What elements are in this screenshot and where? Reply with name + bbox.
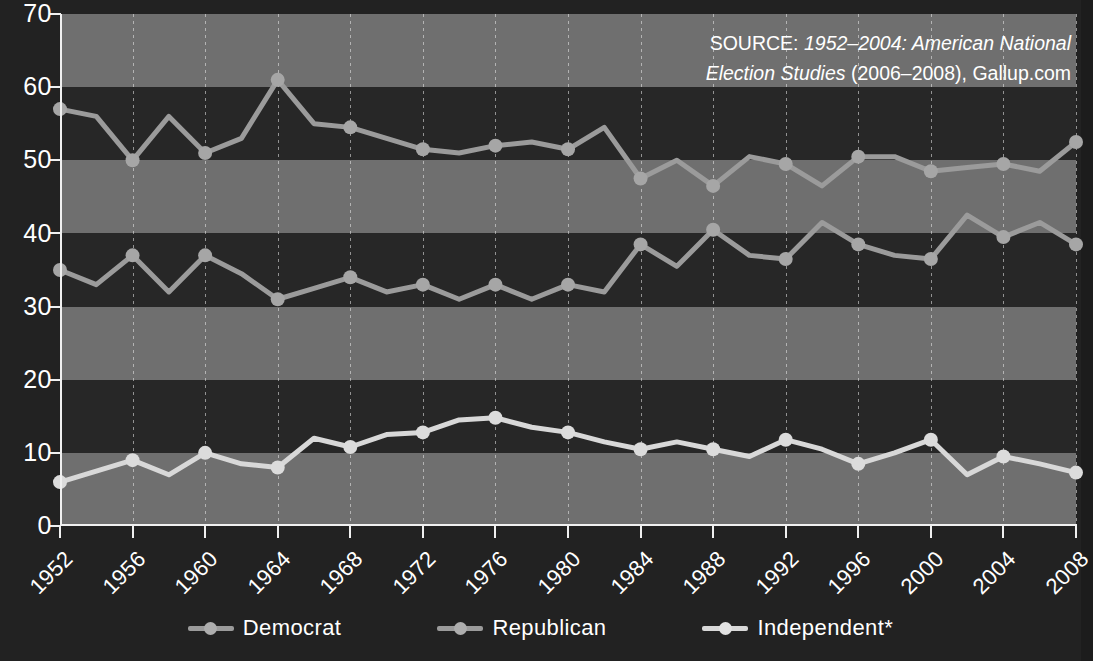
x-tick	[494, 526, 496, 538]
x-tick	[422, 526, 424, 538]
x-tick	[277, 526, 279, 538]
data-point	[996, 450, 1010, 464]
x-axis-label-1956: 1956	[93, 546, 151, 604]
y-axis-label-30: 30	[23, 294, 52, 319]
data-point	[343, 440, 357, 454]
legend-swatch-republican	[437, 626, 483, 631]
x-axis-label-2000: 2000	[891, 546, 949, 604]
legend-swatch-democrat	[188, 626, 234, 631]
data-point	[416, 142, 430, 156]
data-point	[1069, 237, 1083, 251]
x-tick	[712, 526, 714, 538]
y-axis-label-0: 0	[38, 513, 52, 538]
data-point	[198, 248, 212, 262]
data-point	[1069, 466, 1083, 480]
data-point	[779, 157, 793, 171]
data-point	[996, 157, 1010, 171]
y-axis-label-70: 70	[23, 1, 52, 26]
data-point	[198, 146, 212, 160]
x-tick	[349, 526, 351, 538]
x-axis-label-1972: 1972	[383, 546, 441, 604]
data-point	[779, 252, 793, 266]
x-tick	[132, 526, 134, 538]
x-tick	[930, 526, 932, 538]
x-tick	[640, 526, 642, 538]
source-prefix: SOURCE:	[710, 32, 804, 54]
series-lines	[60, 14, 1076, 526]
legend-label-independent: Independent*	[757, 615, 893, 641]
data-point	[198, 446, 212, 460]
x-tick	[59, 526, 61, 538]
gridline-vertical	[1076, 14, 1077, 526]
x-tick	[1075, 526, 1077, 538]
legend-swatch-independent	[702, 626, 748, 631]
data-point	[851, 237, 865, 251]
x-tick	[785, 526, 787, 538]
legend-label-republican: Republican	[492, 615, 606, 641]
chart-legend: Democrat Republican Independent*	[0, 615, 1081, 641]
data-point	[851, 457, 865, 471]
data-point	[416, 425, 430, 439]
data-point	[271, 73, 285, 87]
data-point	[706, 223, 720, 237]
data-point	[561, 142, 575, 156]
data-point	[924, 164, 938, 178]
plot-area	[60, 14, 1076, 526]
x-axis-label-1976: 1976	[456, 546, 514, 604]
x-axis-label-1996: 1996	[819, 546, 877, 604]
data-point	[488, 411, 502, 425]
source-suffix: (2006–2008), Gallup.com	[846, 62, 1071, 84]
x-axis-label-2004: 2004	[964, 546, 1022, 604]
data-point	[343, 120, 357, 134]
y-axis-line	[60, 14, 62, 526]
x-axis-label-1980: 1980	[528, 546, 586, 604]
y-axis-label-40: 40	[23, 221, 52, 246]
legend-item-republican[interactable]: Republican	[437, 615, 606, 641]
data-point	[996, 230, 1010, 244]
x-tick	[857, 526, 859, 538]
x-axis-label-1968: 1968	[311, 546, 369, 604]
y-axis-label-50: 50	[23, 147, 52, 172]
x-axis-label-1992: 1992	[746, 546, 804, 604]
data-point	[706, 442, 720, 456]
data-point	[634, 442, 648, 456]
series-line-democrat	[60, 80, 1076, 186]
data-point	[634, 237, 648, 251]
data-point	[416, 278, 430, 292]
y-axis-label-60: 60	[23, 74, 52, 99]
data-point	[924, 433, 938, 447]
legend-item-independent[interactable]: Independent*	[702, 615, 893, 641]
y-axis-label-20: 20	[23, 367, 52, 392]
x-axis-label-1984: 1984	[601, 546, 659, 604]
y-axis-label-10: 10	[23, 440, 52, 465]
data-point	[126, 153, 140, 167]
data-point	[488, 278, 502, 292]
legend-item-democrat[interactable]: Democrat	[188, 615, 342, 641]
x-axis-label-2008: 2008	[1036, 546, 1093, 604]
x-axis-label-1952: 1952	[20, 546, 78, 604]
data-point	[488, 139, 502, 153]
x-axis-label-1988: 1988	[674, 546, 732, 604]
x-tick	[204, 526, 206, 538]
legend-label-democrat: Democrat	[243, 615, 342, 641]
x-tick	[1002, 526, 1004, 538]
x-axis-label-1960: 1960	[166, 546, 224, 604]
data-point	[706, 179, 720, 193]
x-axis-label-1964: 1964	[238, 546, 296, 604]
data-point	[343, 270, 357, 284]
data-point	[271, 292, 285, 306]
data-point	[561, 425, 575, 439]
data-point	[126, 453, 140, 467]
data-point	[924, 252, 938, 266]
data-point	[1069, 135, 1083, 149]
x-tick	[567, 526, 569, 538]
data-point	[271, 460, 285, 474]
source-note: SOURCE: 1952–2004: American National Ele…	[661, 28, 1071, 88]
data-point	[779, 433, 793, 447]
data-point	[634, 172, 648, 186]
data-point	[126, 248, 140, 262]
data-point	[561, 278, 575, 292]
data-point	[851, 150, 865, 164]
